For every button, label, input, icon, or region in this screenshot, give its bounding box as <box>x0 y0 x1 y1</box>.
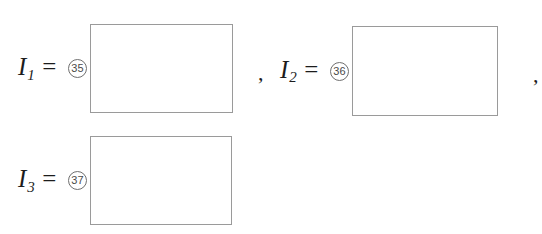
worksheet-canvas: I1= 35 , I2= 36 , I3= 37 <box>0 0 542 234</box>
trailing-comma-1: , <box>258 62 264 84</box>
answer-box-37[interactable] <box>90 136 232 225</box>
equals-sign: = <box>42 165 57 192</box>
variable-subscript: 1 <box>27 67 35 83</box>
answer-slot-number-35: 35 <box>68 59 87 78</box>
variable-symbol: I <box>280 56 289 83</box>
answer-slot-number-37: 37 <box>68 171 87 190</box>
variable-subscript: 3 <box>27 179 35 195</box>
equation-label-3: I3= <box>18 166 59 195</box>
equation-label-2: I2= <box>280 57 321 86</box>
answer-slot-number-36: 36 <box>330 62 349 81</box>
equation-label-1: I1= <box>18 54 59 83</box>
variable-symbol: I <box>18 53 27 80</box>
variable-subscript: 2 <box>289 69 297 85</box>
equals-sign: = <box>304 56 319 83</box>
variable-symbol: I <box>18 165 27 192</box>
answer-box-36[interactable] <box>352 26 498 116</box>
equals-sign: = <box>42 53 57 80</box>
equation-row-2: I2= 36 <box>280 26 498 116</box>
answer-box-35[interactable] <box>90 24 233 113</box>
trailing-comma-2: , <box>533 64 539 86</box>
equation-row-3: I3= 37 <box>18 136 232 225</box>
equation-row-1: I1= 35 <box>18 24 233 113</box>
